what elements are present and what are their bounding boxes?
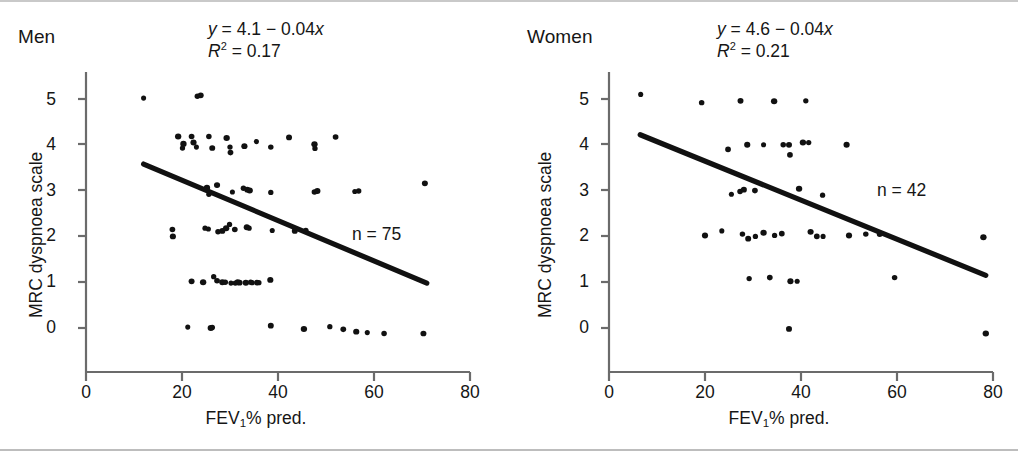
data-point [209, 145, 215, 151]
data-point [699, 100, 705, 105]
data-point [208, 325, 214, 331]
data-point [725, 147, 731, 153]
regression-line-men [144, 164, 427, 283]
panel-men: Men y = 4.1 − 0.04x R2 = 0.17 MRC dyspno… [0, 0, 509, 451]
data-point [752, 188, 758, 194]
data-point [772, 233, 777, 238]
data-point [381, 331, 387, 336]
data-point [779, 231, 785, 237]
plot-area-men [0, 0, 509, 451]
data-point [206, 134, 212, 139]
data-point [719, 228, 724, 233]
data-point [814, 234, 820, 240]
data-point [248, 280, 253, 285]
data-point [254, 139, 259, 144]
data-point [228, 150, 234, 156]
data-point [222, 279, 228, 285]
data-point [760, 230, 766, 236]
fit-line-segment [144, 164, 427, 283]
data-point [314, 188, 320, 194]
data-point [796, 186, 802, 192]
data-point [268, 190, 273, 195]
data-point [230, 189, 235, 194]
data-point [795, 279, 800, 284]
x-ticks-women [609, 372, 993, 381]
data-point [175, 134, 181, 140]
data-point [227, 144, 232, 149]
data-point [170, 227, 176, 233]
data-point [800, 139, 806, 145]
data-point [268, 144, 274, 149]
data-point [863, 231, 869, 236]
axis-lines-women [609, 72, 993, 372]
data-point [200, 279, 206, 285]
data-point [247, 226, 252, 231]
plot-area-women [509, 0, 1018, 451]
data-point [821, 234, 826, 239]
data-point [767, 275, 773, 281]
data-point [232, 227, 238, 233]
data-point [356, 188, 362, 193]
data-point [170, 233, 176, 239]
data-point [753, 234, 758, 239]
data-point [214, 182, 220, 188]
data-point [820, 193, 825, 198]
data-point [846, 233, 852, 239]
data-point [980, 234, 986, 240]
data-point [365, 330, 370, 335]
data-point [420, 331, 426, 337]
data-point [892, 275, 898, 280]
data-point [267, 277, 273, 283]
data-point [246, 188, 252, 194]
data-point [844, 142, 850, 148]
data-point [747, 276, 752, 281]
data-point [780, 142, 786, 147]
fit-line-segment [640, 135, 986, 276]
regression-line-women [640, 135, 986, 276]
data-point [787, 278, 793, 284]
data-point [141, 96, 146, 101]
data-point [202, 226, 207, 231]
y-ticks-men [78, 99, 86, 328]
data-point [194, 145, 199, 150]
data-point [189, 278, 195, 284]
data-point [808, 229, 814, 235]
data-point [745, 236, 751, 242]
data-point [256, 280, 262, 285]
data-point [241, 143, 247, 149]
data-point [786, 142, 792, 148]
data-point [803, 98, 808, 103]
data-point [740, 231, 746, 236]
data-point [738, 98, 744, 104]
data-point [729, 192, 734, 197]
data-point [638, 92, 643, 97]
y-ticks-women [601, 99, 609, 328]
data-point [189, 134, 195, 140]
data-point [353, 329, 359, 335]
data-point [270, 228, 275, 233]
data-point [333, 134, 339, 140]
figure-root: Men y = 4.1 − 0.04x R2 = 0.17 MRC dyspno… [0, 0, 1018, 451]
data-point [744, 142, 750, 148]
data-point [983, 330, 989, 336]
data-point [702, 233, 708, 239]
panel-women: Women y = 4.6 − 0.04x R2 = 0.21 MRC dysp… [509, 0, 1018, 451]
data-point [180, 141, 186, 147]
data-point [286, 135, 292, 141]
data-point [214, 278, 220, 284]
data-point [301, 326, 307, 332]
data-point [771, 98, 777, 104]
data-point [223, 135, 229, 141]
data-point [185, 325, 190, 330]
data-point [806, 140, 811, 145]
scatter-points-men [141, 92, 428, 336]
data-point [741, 187, 747, 193]
data-point [198, 92, 204, 98]
data-point [190, 140, 196, 146]
data-point [786, 326, 792, 332]
data-point [227, 222, 232, 227]
x-ticks-men [86, 372, 470, 381]
data-point [268, 323, 274, 329]
data-point [761, 142, 766, 147]
scatter-points-women [638, 92, 989, 337]
